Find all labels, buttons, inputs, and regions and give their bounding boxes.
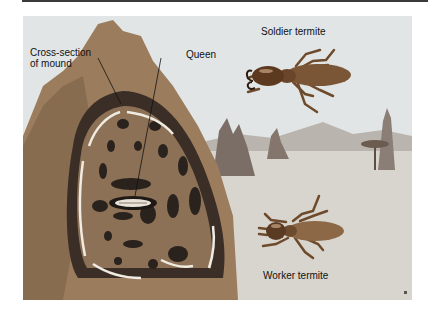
- label-worker-termite: Worker termite: [263, 270, 328, 281]
- queen-termite: [109, 196, 157, 210]
- top-rule: [22, 0, 428, 2]
- label-cross-section: Cross-section of mound: [30, 47, 91, 69]
- label-cross-section-line2: of mound: [30, 58, 91, 69]
- label-cross-section-line1: Cross-section: [30, 47, 91, 58]
- termite-mound-illustration: Cross-section of mound Queen Soldier ter…: [23, 16, 412, 300]
- corner-mark: [404, 291, 407, 294]
- label-queen: Queen: [186, 49, 216, 60]
- label-soldier-termite: Soldier termite: [261, 26, 325, 37]
